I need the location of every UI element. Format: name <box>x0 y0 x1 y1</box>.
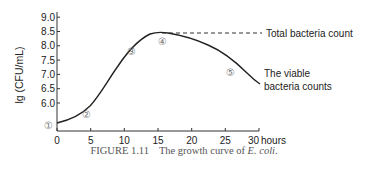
svg-text:8.5: 8.5 <box>41 26 55 37</box>
figure-caption: FIGURE 1.11The growth curve of E. coli. <box>0 145 368 156</box>
total-count-label: Total bacteria count <box>266 28 353 39</box>
viable-count-label-line1: The viable <box>264 68 311 79</box>
svg-text:9.0: 9.0 <box>41 12 55 23</box>
phase-marker-2: ② <box>82 109 91 120</box>
y-axis-label: lg (CFU/mL) <box>13 46 25 103</box>
phase-marker-4: ④ <box>158 36 167 47</box>
svg-text:7.0: 7.0 <box>41 69 55 80</box>
svg-text:6.5: 6.5 <box>41 83 55 94</box>
svg-text:7.5: 7.5 <box>41 55 55 66</box>
phase-marker-1: ① <box>44 120 53 131</box>
svg-text:6.0: 6.0 <box>41 98 55 109</box>
figure-number: FIGURE 1.11 <box>90 145 149 156</box>
svg-text:8.0: 8.0 <box>41 40 55 51</box>
caption-species: E. coli <box>248 145 275 156</box>
caption-text: The growth curve of <box>159 145 248 156</box>
viable-count-label-line2: bacteria counts <box>264 81 332 92</box>
phase-marker-5: ⑤ <box>226 67 235 78</box>
growth-curve-figure: lg (CFU/mL) 6.0 6.5 7.0 7.5 8.0 8.5 9.0 <box>0 0 368 174</box>
phase-marker-3: ③ <box>127 46 136 57</box>
